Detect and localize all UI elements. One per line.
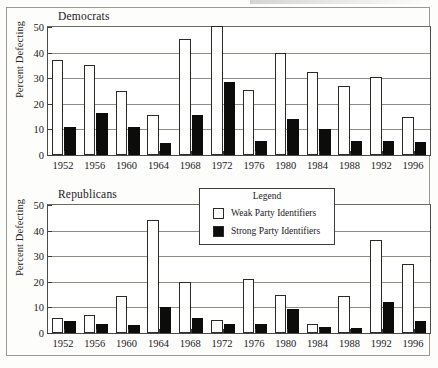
panel-title-democrats: Democrats — [58, 10, 110, 22]
bar-weak-1960 — [116, 91, 127, 155]
bar-weak-1988 — [338, 86, 349, 155]
bar-strong-1976 — [255, 141, 266, 155]
bar-strong-1960 — [128, 127, 139, 155]
y-tick-label: 30 — [22, 251, 44, 262]
bar-weak-1960 — [116, 296, 127, 333]
x-tick-mark — [223, 151, 224, 155]
panel-title-republicans: Republicans — [58, 188, 117, 200]
bar-strong-1984 — [319, 327, 330, 333]
y-tick-label: 0 — [22, 150, 44, 161]
figure-canvas: Democrats Percent Defecting 01020304050 … — [0, 0, 438, 368]
x-tick-mark — [255, 329, 256, 333]
x-tick-mark — [159, 329, 160, 333]
x-tick-mark — [64, 151, 65, 155]
legend-swatch-strong-icon — [213, 226, 224, 237]
bar-weak-1952 — [52, 318, 63, 333]
legend-label-weak: Weak Party Identifiers — [231, 208, 316, 218]
x-tick-label-1988: 1988 — [339, 338, 360, 349]
bar-strong-1984 — [319, 129, 330, 155]
x-tick-mark — [382, 151, 383, 155]
x-tick-label-1972: 1972 — [212, 160, 233, 171]
y-tick-label: 40 — [22, 47, 44, 58]
x-tick-mark — [350, 151, 351, 155]
bar-weak-1980 — [275, 295, 286, 333]
x-tick-label-1992: 1992 — [371, 160, 392, 171]
x-tick-mark — [414, 151, 415, 155]
bar-weak-1972 — [211, 26, 222, 155]
x-tick-label-1976: 1976 — [243, 338, 264, 349]
bar-strong-1996 — [415, 321, 426, 333]
bar-weak-1964 — [147, 220, 158, 333]
legend-item-strong: Strong Party Identifiers — [213, 224, 320, 238]
bar-strong-1956 — [96, 324, 107, 333]
bar-weak-1988 — [338, 296, 349, 333]
bar-strong-1956 — [96, 113, 107, 155]
bar-strong-1980 — [287, 309, 298, 333]
bar-weak-1984 — [307, 72, 318, 155]
y-tick-mark — [48, 282, 52, 283]
y-tick-label: 10 — [22, 302, 44, 313]
plot-area-democrats: 01020304050 — [47, 26, 431, 156]
bar-strong-1972 — [224, 82, 235, 155]
bar-strong-1980 — [287, 119, 298, 155]
x-tick-label-1992: 1992 — [371, 338, 392, 349]
y-tick-label: 20 — [22, 98, 44, 109]
bar-weak-1996 — [402, 264, 413, 333]
x-tick-mark — [382, 329, 383, 333]
x-tick-label-1984: 1984 — [307, 160, 328, 171]
y-tick-mark — [48, 27, 52, 28]
y-tick-mark — [48, 205, 52, 206]
bar-strong-1968 — [192, 318, 203, 333]
bar-strong-1992 — [383, 141, 394, 155]
x-tick-mark — [159, 151, 160, 155]
x-tick-mark — [96, 329, 97, 333]
bar-strong-1988 — [351, 328, 362, 333]
y-tick-mark — [48, 333, 52, 334]
x-tick-mark — [319, 151, 320, 155]
bar-strong-1992 — [383, 302, 394, 333]
bar-weak-1968 — [179, 282, 190, 333]
x-tick-label-1952: 1952 — [52, 160, 73, 171]
x-tick-label-1996: 1996 — [403, 160, 424, 171]
bar-strong-1960 — [128, 325, 139, 333]
legend-item-weak: Weak Party Identifiers — [213, 206, 316, 220]
y-tick-mark — [48, 256, 52, 257]
x-tick-label-1960: 1960 — [116, 160, 137, 171]
x-tick-label-1980: 1980 — [275, 338, 296, 349]
x-tick-mark — [128, 329, 129, 333]
bar-strong-1988 — [351, 141, 362, 155]
bar-weak-1992 — [370, 240, 381, 333]
bar-strong-1976 — [255, 324, 266, 333]
bar-strong-1964 — [160, 143, 171, 155]
x-tick-mark — [96, 151, 97, 155]
bar-strong-1996 — [415, 142, 426, 155]
y-tick-label: 30 — [22, 73, 44, 84]
legend-title: Legend — [200, 191, 334, 201]
y-tick-mark — [48, 231, 52, 232]
x-tick-mark — [223, 329, 224, 333]
scan-artifact — [250, 0, 430, 4]
bar-weak-1980 — [275, 53, 286, 155]
y-tick-mark — [48, 53, 52, 54]
x-tick-label-1952: 1952 — [52, 338, 73, 349]
x-tick-label-1988: 1988 — [339, 160, 360, 171]
legend-swatch-weak-icon — [213, 208, 224, 219]
x-tick-mark — [191, 329, 192, 333]
x-tick-mark — [64, 329, 65, 333]
x-tick-label-1964: 1964 — [148, 160, 169, 171]
y-tick-label: 10 — [22, 124, 44, 135]
bar-weak-1976 — [243, 90, 254, 155]
x-tick-mark — [255, 151, 256, 155]
x-tick-label-1972: 1972 — [212, 338, 233, 349]
bar-weak-1996 — [402, 117, 413, 155]
x-tick-mark — [414, 329, 415, 333]
bar-weak-1956 — [84, 315, 95, 333]
x-tick-label-1968: 1968 — [180, 338, 201, 349]
bar-weak-1984 — [307, 324, 318, 333]
bar-weak-1968 — [179, 39, 190, 155]
x-tick-label-1964: 1964 — [148, 338, 169, 349]
y-tick-label: 40 — [22, 225, 44, 236]
legend-box: Legend Weak Party Identifiers Strong Par… — [199, 188, 335, 245]
bar-strong-1972 — [224, 324, 235, 333]
y-tick-label: 50 — [22, 22, 44, 33]
